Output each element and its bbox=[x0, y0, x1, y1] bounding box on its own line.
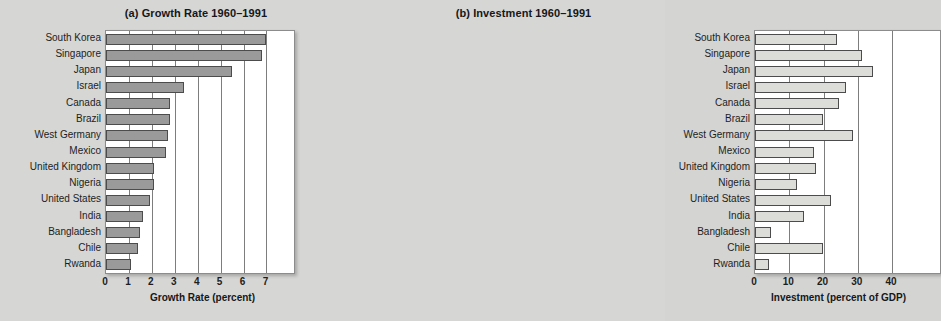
x-tick-label: 30 bbox=[851, 276, 862, 287]
panel-b-x-axis-title: Investment (percent of GDP) bbox=[771, 292, 906, 303]
x-tick-label: 3 bbox=[171, 276, 177, 287]
panel-a-category-labels: South KoreaSingaporeJapanIsraelCanadaBra… bbox=[10, 30, 101, 274]
panel-b-plot-area bbox=[754, 30, 941, 274]
category-label: South Korea bbox=[694, 32, 750, 43]
category-label: South Korea bbox=[45, 32, 101, 43]
category-label: United Kingdom bbox=[30, 161, 101, 172]
bar bbox=[106, 114, 170, 125]
bar bbox=[106, 243, 138, 254]
bar bbox=[106, 50, 262, 61]
x-tick-label: 6 bbox=[240, 276, 246, 287]
bar bbox=[106, 259, 131, 270]
category-label: West Germany bbox=[684, 129, 751, 140]
category-label: Nigeria bbox=[718, 177, 750, 188]
category-label: Brazil bbox=[76, 113, 101, 124]
bar bbox=[755, 211, 804, 222]
panel-a-plot-area bbox=[105, 30, 295, 274]
panel-b-x-tick-labels: 010203040 bbox=[754, 276, 941, 290]
gridline-x-6 bbox=[244, 31, 245, 273]
category-label: India bbox=[79, 210, 101, 221]
chart-panel-investment: (b) Investment 1960–1991 South KoreaSing… bbox=[330, 0, 665, 321]
bar bbox=[755, 50, 862, 61]
bar bbox=[106, 66, 232, 77]
bar bbox=[106, 98, 170, 109]
chart-panel-growth-rate: (a) Growth Rate 1960–1991 South KoreaSin… bbox=[0, 0, 330, 321]
x-tick-label: 2 bbox=[148, 276, 154, 287]
x-tick-label: 0 bbox=[751, 276, 757, 287]
category-label: Singapore bbox=[704, 48, 750, 59]
category-label: United Kingdom bbox=[679, 161, 750, 172]
bar bbox=[106, 179, 154, 190]
bar bbox=[106, 211, 143, 222]
category-label: Canada bbox=[715, 97, 750, 108]
category-label: Rwanda bbox=[64, 258, 101, 269]
gridline-x-7 bbox=[266, 31, 267, 273]
category-label: United States bbox=[41, 193, 101, 204]
panel-b-title: (b) Investment 1960–1991 bbox=[330, 7, 665, 19]
x-tick-label: 4 bbox=[194, 276, 200, 287]
category-label: Nigeria bbox=[69, 177, 101, 188]
bar bbox=[755, 34, 837, 45]
bar bbox=[106, 227, 140, 238]
category-label: Mexico bbox=[718, 145, 750, 156]
x-tick-label: 10 bbox=[783, 276, 794, 287]
bar bbox=[106, 82, 184, 93]
gridline-x-40 bbox=[892, 31, 893, 273]
bar bbox=[106, 163, 154, 174]
panel-b-category-labels: South KoreaSingaporeJapanIsraelCanadaBra… bbox=[660, 30, 750, 274]
x-tick-label: 40 bbox=[885, 276, 896, 287]
bar bbox=[755, 163, 816, 174]
bar bbox=[755, 66, 873, 77]
category-label: Canada bbox=[66, 97, 101, 108]
bar bbox=[755, 130, 853, 141]
bar bbox=[755, 98, 839, 109]
category-label: Israel bbox=[77, 80, 101, 91]
bar bbox=[755, 82, 846, 93]
panel-a-title: (a) Growth Rate 1960–1991 bbox=[0, 7, 330, 19]
x-tick-label: 7 bbox=[263, 276, 269, 287]
category-label: West Germany bbox=[35, 129, 102, 140]
category-label: Bangladesh bbox=[697, 226, 750, 237]
bar bbox=[106, 147, 166, 158]
category-label: Japan bbox=[723, 64, 750, 75]
bar bbox=[755, 179, 797, 190]
bar bbox=[106, 130, 168, 141]
x-tick-label: 20 bbox=[817, 276, 828, 287]
bar bbox=[755, 147, 814, 158]
category-label: Mexico bbox=[69, 145, 101, 156]
category-label: Japan bbox=[74, 64, 101, 75]
bar bbox=[106, 195, 150, 206]
bar bbox=[755, 243, 823, 254]
panel-a-x-axis-title: Growth Rate (percent) bbox=[150, 292, 255, 303]
category-label: Singapore bbox=[55, 48, 101, 59]
x-tick-label: 1 bbox=[125, 276, 131, 287]
category-label: Rwanda bbox=[713, 258, 750, 269]
bar bbox=[755, 227, 771, 238]
category-label: Bangladesh bbox=[48, 226, 101, 237]
category-label: United States bbox=[690, 193, 750, 204]
category-label: Chile bbox=[727, 242, 750, 253]
bar bbox=[755, 259, 769, 270]
x-tick-label: 5 bbox=[217, 276, 223, 287]
x-tick-label: 0 bbox=[102, 276, 108, 287]
category-label: Chile bbox=[78, 242, 101, 253]
bar bbox=[755, 114, 823, 125]
category-label: India bbox=[728, 210, 750, 221]
category-label: Brazil bbox=[725, 113, 750, 124]
bar bbox=[755, 195, 831, 206]
category-label: Israel bbox=[726, 80, 750, 91]
bar bbox=[106, 34, 266, 45]
panel-a-x-tick-labels: 01234567 bbox=[105, 276, 295, 290]
